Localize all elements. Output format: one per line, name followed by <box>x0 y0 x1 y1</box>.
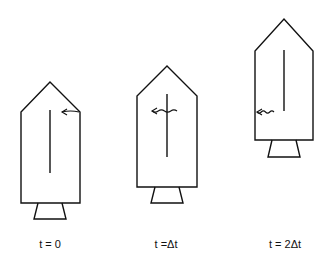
time-label-t1: t =Δt <box>155 238 178 250</box>
rocket-light-signal-diagram: t = 0 t =Δt t = 2Δt <box>0 0 329 261</box>
rocket-nozzle <box>151 187 183 203</box>
time-label-t0: t = 0 <box>39 238 61 250</box>
rocket-nozzle <box>268 140 300 157</box>
rocket-0 <box>21 82 80 219</box>
light-signal-icon <box>152 110 177 112</box>
rocket-2 <box>255 19 313 157</box>
rocket-1 <box>137 66 197 203</box>
arrowhead-icon <box>152 108 157 114</box>
rocket-nozzle <box>34 203 66 219</box>
time-label-t2: t = 2Δt <box>269 238 301 250</box>
light-signal-icon <box>62 111 79 112</box>
light-signal-icon <box>257 111 274 113</box>
